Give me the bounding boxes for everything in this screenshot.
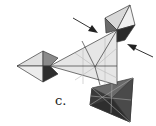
central-triangle — [50, 30, 117, 85]
arrow-top-left — [73, 18, 98, 33]
arrow-right — [127, 44, 153, 57]
figure-label: c. — [55, 93, 66, 108]
diagram-figure: c. — [0, 0, 156, 126]
bottom-square-flap — [90, 78, 133, 122]
origami-diagram — [0, 0, 156, 126]
